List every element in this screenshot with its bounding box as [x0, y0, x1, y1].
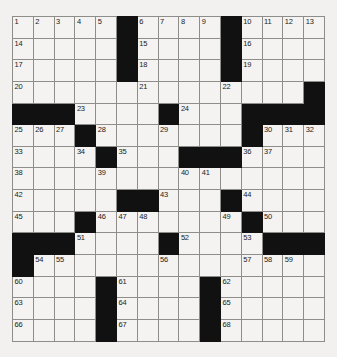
crossword-cell[interactable]: 62 — [220, 276, 241, 298]
crossword-cell[interactable] — [75, 298, 96, 320]
crossword-cell[interactable] — [200, 255, 221, 277]
crossword-cell[interactable] — [33, 190, 54, 212]
crossword-cell[interactable] — [262, 60, 283, 82]
crossword-cell[interactable] — [137, 233, 158, 255]
crossword-cell[interactable] — [158, 38, 179, 60]
crossword-cell[interactable]: 10 — [241, 17, 262, 39]
crossword-cell[interactable] — [33, 276, 54, 298]
crossword-cell[interactable]: 43 — [158, 190, 179, 212]
crossword-cell[interactable] — [75, 60, 96, 82]
crossword-cell[interactable] — [179, 298, 200, 320]
crossword-cell[interactable] — [179, 255, 200, 277]
crossword-cell[interactable] — [33, 81, 54, 103]
crossword-cell[interactable] — [137, 125, 158, 147]
crossword-cell[interactable]: 3 — [54, 17, 75, 39]
crossword-cell[interactable] — [283, 146, 304, 168]
crossword-cell[interactable]: 30 — [262, 125, 283, 147]
crossword-cell[interactable] — [116, 255, 137, 277]
crossword-cell[interactable] — [283, 298, 304, 320]
crossword-cell[interactable] — [54, 190, 75, 212]
crossword-cell[interactable] — [33, 146, 54, 168]
crossword-cell[interactable]: 29 — [158, 125, 179, 147]
crossword-cell[interactable] — [200, 233, 221, 255]
crossword-cell[interactable] — [137, 103, 158, 125]
crossword-cell[interactable] — [262, 276, 283, 298]
crossword-cell[interactable] — [262, 319, 283, 341]
crossword-cell[interactable] — [200, 103, 221, 125]
crossword-cell[interactable] — [262, 298, 283, 320]
crossword-cell[interactable] — [96, 81, 117, 103]
crossword-cell[interactable]: 5 — [96, 17, 117, 39]
crossword-cell[interactable]: 48 — [137, 211, 158, 233]
crossword-cell[interactable] — [33, 38, 54, 60]
crossword-cell[interactable]: 66 — [13, 319, 34, 341]
crossword-cell[interactable] — [304, 146, 325, 168]
crossword-cell[interactable] — [241, 81, 262, 103]
crossword-cell[interactable]: 31 — [283, 125, 304, 147]
crossword-cell[interactable] — [158, 81, 179, 103]
crossword-cell[interactable]: 57 — [241, 255, 262, 277]
crossword-cell[interactable] — [283, 211, 304, 233]
crossword-cell[interactable] — [220, 103, 241, 125]
crossword-cell[interactable] — [283, 190, 304, 212]
crossword-cell[interactable]: 19 — [241, 60, 262, 82]
crossword-cell[interactable] — [179, 319, 200, 341]
crossword-cell[interactable] — [96, 190, 117, 212]
crossword-cell[interactable] — [304, 190, 325, 212]
crossword-cell[interactable] — [262, 81, 283, 103]
crossword-cell[interactable] — [283, 168, 304, 190]
crossword-cell[interactable] — [304, 168, 325, 190]
crossword-cell[interactable] — [158, 146, 179, 168]
crossword-cell[interactable] — [200, 190, 221, 212]
crossword-cell[interactable] — [54, 146, 75, 168]
crossword-cell[interactable] — [262, 190, 283, 212]
crossword-cell[interactable]: 7 — [158, 17, 179, 39]
crossword-cell[interactable] — [304, 60, 325, 82]
crossword-cell[interactable]: 25 — [13, 125, 34, 147]
crossword-cell[interactable] — [75, 190, 96, 212]
crossword-cell[interactable] — [158, 60, 179, 82]
crossword-cell[interactable]: 54 — [33, 255, 54, 277]
crossword-cell[interactable]: 52 — [179, 233, 200, 255]
crossword-cell[interactable] — [220, 255, 241, 277]
crossword-cell[interactable] — [158, 276, 179, 298]
crossword-cell[interactable]: 12 — [283, 17, 304, 39]
crossword-cell[interactable] — [116, 233, 137, 255]
crossword-cell[interactable]: 15 — [137, 38, 158, 60]
crossword-cell[interactable] — [54, 276, 75, 298]
crossword-cell[interactable]: 13 — [304, 17, 325, 39]
crossword-cell[interactable] — [200, 125, 221, 147]
crossword-cell[interactable] — [54, 319, 75, 341]
crossword-cell[interactable]: 53 — [241, 233, 262, 255]
crossword-cell[interactable] — [137, 298, 158, 320]
crossword-cell[interactable]: 42 — [13, 190, 34, 212]
crossword-cell[interactable] — [54, 60, 75, 82]
crossword-cell[interactable] — [116, 125, 137, 147]
crossword-cell[interactable] — [75, 255, 96, 277]
crossword-cell[interactable]: 20 — [13, 81, 34, 103]
crossword-cell[interactable]: 18 — [137, 60, 158, 82]
crossword-cell[interactable]: 35 — [116, 146, 137, 168]
crossword-cell[interactable]: 55 — [54, 255, 75, 277]
crossword-grid[interactable]: 1234567891011121314151617181920212223242… — [12, 16, 325, 342]
crossword-cell[interactable]: 47 — [116, 211, 137, 233]
crossword-cell[interactable] — [137, 146, 158, 168]
crossword-cell[interactable] — [304, 319, 325, 341]
crossword-cell[interactable] — [75, 168, 96, 190]
crossword-cell[interactable]: 64 — [116, 298, 137, 320]
crossword-cell[interactable]: 24 — [179, 103, 200, 125]
crossword-cell[interactable]: 11 — [262, 17, 283, 39]
crossword-cell[interactable] — [304, 255, 325, 277]
crossword-cell[interactable] — [75, 38, 96, 60]
crossword-cell[interactable]: 61 — [116, 276, 137, 298]
crossword-cell[interactable] — [283, 81, 304, 103]
crossword-cell[interactable] — [96, 38, 117, 60]
crossword-cell[interactable] — [54, 38, 75, 60]
crossword-cell[interactable] — [179, 190, 200, 212]
crossword-cell[interactable]: 68 — [220, 319, 241, 341]
crossword-cell[interactable] — [75, 276, 96, 298]
crossword-cell[interactable]: 56 — [158, 255, 179, 277]
crossword-cell[interactable] — [241, 168, 262, 190]
crossword-cell[interactable] — [220, 233, 241, 255]
crossword-cell[interactable]: 14 — [13, 38, 34, 60]
